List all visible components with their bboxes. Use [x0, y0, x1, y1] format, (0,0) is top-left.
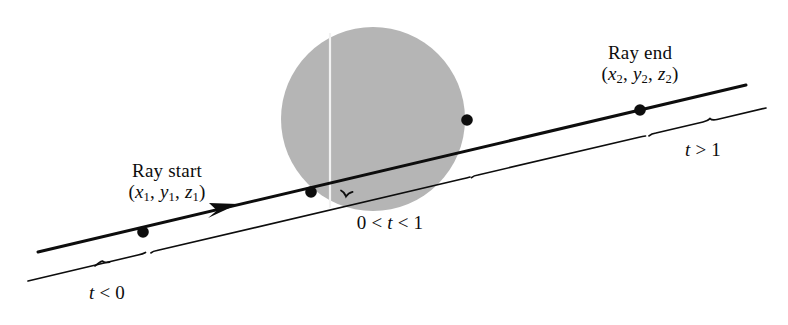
ray-start-z: z [185, 181, 193, 202]
ray-end-x-subscript: 2 [617, 72, 623, 86]
label-t-between-zero-and-one: 0 < t < 1 [320, 212, 460, 233]
ray-end-y: y [633, 63, 642, 84]
ray-end-label-group: Ray end (x2, y2, z2) [565, 42, 715, 85]
t-between-prefix: 0 < [357, 212, 388, 233]
ray-end-x: x [608, 63, 617, 84]
ray-start-coordinates: (x1, y1, z1) [128, 181, 205, 202]
ray-end-coordinates: (x2, y2, z2) [601, 63, 678, 84]
ray-end-separator-1: , [623, 63, 633, 84]
ray-end-z: z [658, 63, 666, 84]
t-less-than-zero-relation: < 0 [94, 282, 125, 303]
t-between-relation: < 1 [393, 212, 424, 233]
ray-start-x-subscript: 1 [144, 190, 150, 204]
point-ray-start [137, 226, 149, 238]
t-greater-relation: > 1 [690, 139, 721, 160]
point-sphere-entry [305, 186, 317, 198]
ray-start-x: x [135, 181, 144, 202]
ray-end-separator-2: , [648, 63, 658, 84]
point-sphere-exit [461, 114, 473, 126]
ray-start-separator-1: , [150, 181, 160, 202]
ray-start-z-subscript: 1 [193, 190, 199, 204]
label-t-less-than-zero: t < 0 [62, 282, 152, 303]
ray-end-title: Ray end [608, 42, 672, 63]
ray-start-paren-close: ) [199, 181, 206, 202]
brace-segment-t-greater-than-one [649, 108, 766, 136]
ray-end-y-subscript: 2 [642, 72, 648, 86]
ray-start-title: Ray start [132, 160, 202, 181]
ray-sphere-intersection-diagram: Ray start (x1, y1, z1) Ray end (x2, y2, … [0, 0, 788, 325]
ray-start-y: y [160, 181, 169, 202]
ray-end-z-subscript: 2 [666, 72, 672, 86]
ray-start-label-group: Ray start (x1, y1, z1) [92, 160, 242, 203]
label-t-greater-than-one: t > 1 [658, 139, 748, 160]
brace-segment-t-less-than-zero [28, 252, 146, 281]
point-ray-end [634, 104, 646, 116]
ray-start-y-subscript: 1 [169, 190, 175, 204]
ray-end-paren-close: ) [672, 63, 679, 84]
ray-start-separator-2: , [175, 181, 185, 202]
sphere-shape [281, 27, 465, 211]
